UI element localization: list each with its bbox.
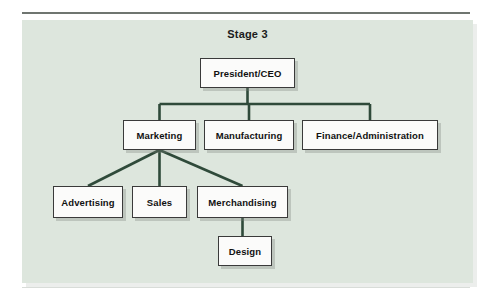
- edge-marketing-to-merchandising: [160, 150, 243, 186]
- org-chart-figure: Stage 3 President/CEOMarketingManufactur…: [0, 0, 495, 298]
- org-node-label: Design: [229, 246, 261, 257]
- org-node-ceo[interactable]: President/CEO: [200, 58, 295, 88]
- org-node-sales[interactable]: Sales: [132, 186, 187, 218]
- org-node-label: Finance/Administration: [316, 130, 424, 141]
- org-node-label: Manufacturing: [216, 130, 283, 141]
- edge-marketing-to-advertising: [88, 150, 160, 186]
- org-node-label: President/CEO: [214, 68, 282, 79]
- org-node-advertising[interactable]: Advertising: [53, 186, 123, 218]
- org-node-finance[interactable]: Finance/Administration: [302, 120, 438, 150]
- org-node-label: Advertising: [61, 197, 114, 208]
- org-node-merchandising[interactable]: Merchandising: [197, 186, 288, 218]
- org-node-design[interactable]: Design: [218, 236, 272, 266]
- org-node-label: Marketing: [137, 130, 183, 141]
- org-node-marketing[interactable]: Marketing: [123, 120, 196, 150]
- chart-title: Stage 3: [0, 28, 495, 40]
- org-node-label: Sales: [147, 197, 172, 208]
- org-node-label: Merchandising: [208, 197, 276, 208]
- org-node-manufacturing[interactable]: Manufacturing: [204, 120, 294, 150]
